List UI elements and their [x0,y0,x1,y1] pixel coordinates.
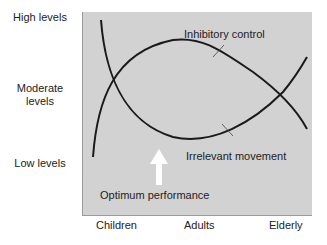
label-inhibitory-control: Inhibitory control [184,28,265,40]
y-tick-moderate-line2: levels [0,95,80,108]
x-tick-children: Children [96,219,137,231]
chart-lines [83,12,312,215]
y-tick-moderate-line1: Moderate [0,82,80,95]
plot-area: Inhibitory control Irrelevant movement O… [82,12,312,216]
x-tick-elderly: Elderly [269,219,303,231]
y-tick-high: High levels [0,11,80,24]
label-irrelevant-movement: Irrelevant movement [186,150,286,162]
x-tick-adults: Adults [184,219,215,231]
optimum-arrow-icon [150,149,168,185]
label-optimum-performance: Optimum performance [100,189,209,201]
y-tick-moderate: Moderate levels [0,82,80,108]
y-tick-low: Low levels [0,157,80,170]
